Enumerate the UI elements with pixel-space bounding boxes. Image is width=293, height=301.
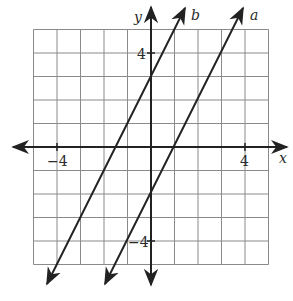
tick-label-x-4: 4: [240, 154, 249, 168]
coordinate-plane: [0, 0, 293, 301]
tick-label-x-neg4: −4: [47, 154, 68, 168]
tick-label-y-neg4: −4: [128, 235, 149, 249]
y-axis-label: y: [134, 10, 142, 24]
x-axis-label: x: [279, 151, 287, 165]
line-a-label: a: [250, 8, 258, 22]
tick-label-y-4: 4: [137, 47, 146, 61]
line-b-label: b: [191, 8, 200, 22]
